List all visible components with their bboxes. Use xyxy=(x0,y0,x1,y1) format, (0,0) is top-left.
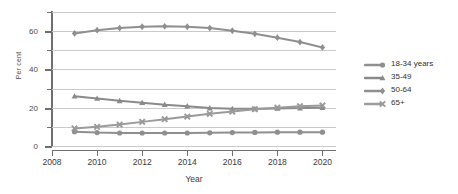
data-point xyxy=(252,30,257,37)
data-point xyxy=(275,34,280,41)
data-point xyxy=(252,130,257,135)
data-point xyxy=(207,25,212,32)
data-point xyxy=(72,30,77,37)
data-point xyxy=(117,130,122,135)
data-point xyxy=(297,130,302,135)
legend-swatch-circle-icon xyxy=(364,57,388,69)
data-point xyxy=(140,130,145,135)
data-point xyxy=(207,130,212,135)
legend-swatch-x-icon xyxy=(364,96,388,108)
data-point xyxy=(117,25,122,32)
series-line xyxy=(75,26,323,47)
series-line xyxy=(75,132,323,133)
x-axis-tick-label: 2012 xyxy=(133,157,152,167)
data-point xyxy=(162,23,167,30)
legend-item-2[interactable]: 35-49 xyxy=(364,70,456,82)
y-axis-tick-label: 60 xyxy=(29,27,38,36)
data-point xyxy=(230,27,235,34)
data-point xyxy=(320,44,325,51)
chart-figure: Per cent 0204060 20082010201220142016201… xyxy=(0,0,458,194)
data-point xyxy=(94,27,99,34)
data-point xyxy=(140,23,145,30)
x-axis-tick xyxy=(277,151,278,156)
data-point xyxy=(185,23,190,30)
x-axis-tick-label: 2008 xyxy=(43,157,62,167)
x-axis-tick-label: 2014 xyxy=(178,157,197,167)
x-axis-tick xyxy=(97,151,98,156)
data-point xyxy=(275,130,280,135)
x-axis-tick-label: 2020 xyxy=(313,157,332,167)
legend-swatch-triangle-icon xyxy=(364,70,388,82)
series-1 xyxy=(72,129,325,136)
legend-label: 65+ xyxy=(388,98,405,107)
data-point xyxy=(162,130,167,135)
y-axis-tick-label: 0 xyxy=(34,142,38,151)
data-point xyxy=(230,130,235,135)
x-axis-tick-label: 2010 xyxy=(88,157,107,167)
series-3 xyxy=(72,23,325,51)
plot-area xyxy=(52,12,336,146)
series-layer xyxy=(52,12,336,146)
legend-item-1[interactable]: 18-34 years xyxy=(364,57,456,69)
legend-label: 18-34 years xyxy=(388,59,433,68)
legend-swatch-diamond-icon xyxy=(364,83,388,95)
x-axis-tick-label: 2018 xyxy=(268,157,287,167)
y-axis-tick-label: 40 xyxy=(29,65,38,74)
data-point xyxy=(94,130,99,135)
series-2 xyxy=(72,93,326,111)
x-axis-tick xyxy=(142,151,143,156)
y-axis-tick-label: 20 xyxy=(29,103,38,112)
x-axis-tick xyxy=(187,151,188,156)
legend-label: 35-49 xyxy=(388,72,411,81)
x-axis-tick-label: 2016 xyxy=(223,157,242,167)
data-point xyxy=(320,130,325,135)
chart-legend: 18-34 years35-4950-6465+ xyxy=(364,57,456,109)
x-axis-title: Year xyxy=(52,174,336,184)
x-axis-tick xyxy=(232,151,233,156)
legend-label: 50-64 xyxy=(388,85,411,94)
data-point xyxy=(185,130,190,135)
x-axis-ticks xyxy=(52,151,336,156)
x-axis-tick xyxy=(52,151,53,156)
x-axis-tick xyxy=(322,151,323,156)
gridline xyxy=(52,146,336,147)
x-axis-tick-labels: 2008201020122014201620182020 xyxy=(52,157,336,169)
data-point xyxy=(297,39,302,46)
legend-item-3[interactable]: 50-64 xyxy=(364,83,456,95)
legend-item-4[interactable]: 65+ xyxy=(364,96,456,108)
